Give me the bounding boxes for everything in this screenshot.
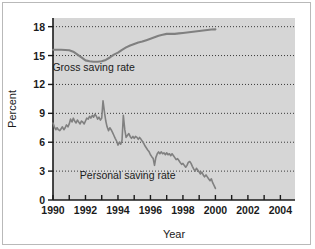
x-tick-label-1996: 1996 [139, 204, 163, 216]
x-tick-label-2004: 2004 [269, 204, 293, 216]
y-tick-label-3: 3 [39, 165, 45, 177]
y-tick-label-0: 0 [39, 194, 45, 206]
gross-saving-rate-label: Gross saving rate [52, 61, 134, 73]
y-tick-label-6: 6 [39, 136, 45, 148]
personal-saving-rate-label: Personal saving rate [80, 169, 176, 181]
x-axis-title: Year [163, 228, 186, 240]
x-tick-label-1992: 1992 [74, 204, 98, 216]
y-tick-label-12: 12 [33, 78, 45, 90]
x-tick-label-1998: 1998 [171, 204, 195, 216]
x-tick-label-2002: 2002 [236, 204, 260, 216]
y-tick-label-18: 18 [33, 21, 45, 33]
chart-figure: 19901992199419961998200020022004 0369121… [0, 0, 315, 249]
y-tick-label-9: 9 [39, 107, 45, 119]
y-tick-label-15: 15 [33, 50, 45, 62]
x-tick-label-1994: 1994 [106, 204, 130, 216]
y-axis-title: Percent [6, 90, 18, 128]
x-axis-tick-labels: 19901992199419961998200020022004 [41, 204, 292, 216]
saving-rate-line-chart: 19901992199419961998200020022004 0369121… [0, 0, 315, 249]
x-tick-label-2000: 2000 [204, 204, 228, 216]
y-axis-tick-labels: 0369121518 [33, 21, 45, 206]
